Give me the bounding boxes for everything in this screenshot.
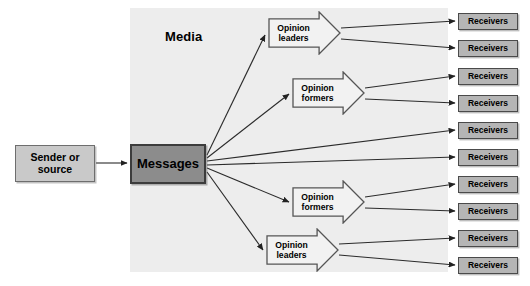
receiver-label: Receivers (468, 180, 508, 190)
opinion-formers-upper-label-line2: formers (302, 93, 334, 103)
receiver-label: Receivers (468, 126, 508, 136)
opinion-leaders-top-label-line1: Opinion (277, 23, 309, 33)
sender-label-line2: source (38, 163, 72, 175)
receiver-box-6: Receivers (458, 149, 518, 166)
receiver-box-5: Receivers (458, 122, 518, 139)
receiver-box-9: Receivers (458, 230, 518, 247)
receiver-label: Receivers (468, 17, 508, 27)
sender-source-box: Sender or source (15, 145, 95, 182)
receiver-box-8: Receivers (458, 203, 518, 220)
opinion-formers-upper: Opinionformers (292, 71, 365, 115)
opinion-leaders-bottom-label-line1: Opinion (275, 240, 307, 250)
opinion-formers-upper-label-line1: Opinion (301, 83, 333, 93)
receiver-label: Receivers (468, 99, 508, 109)
sender-label-line1: Sender or (30, 151, 79, 163)
receiver-box-10: Receivers (458, 257, 518, 274)
receiver-box-2: Receivers (458, 40, 518, 57)
receiver-label: Receivers (468, 261, 508, 271)
opinion-leaders-bottom-label-line2: leaders (276, 250, 306, 260)
receiver-box-1: Receivers (458, 13, 518, 30)
opinion-formers-lower: Opinionformers (292, 180, 365, 224)
receiver-box-4: Receivers (458, 95, 518, 112)
diagram-canvas: Media Sender or source Messages Opinionl… (0, 0, 530, 286)
opinion-formers-lower-label-line1: Opinion (301, 192, 333, 202)
receiver-box-7: Receivers (458, 176, 518, 193)
opinion-leaders-top-label-line2: leaders (278, 33, 308, 43)
receiver-label: Receivers (468, 72, 508, 82)
receiver-label: Receivers (468, 153, 508, 163)
receiver-label: Receivers (468, 234, 508, 244)
media-label: Media (165, 29, 202, 44)
opinion-leaders-top: Opinionleaders (268, 11, 341, 55)
receiver-box-3: Receivers (458, 68, 518, 85)
messages-box: Messages (130, 144, 206, 184)
receiver-label: Receivers (468, 44, 508, 54)
receiver-label: Receivers (468, 207, 508, 217)
opinion-leaders-bottom: Opinionleaders (266, 228, 339, 272)
opinion-formers-lower-label-line2: formers (302, 202, 334, 212)
messages-label: Messages (137, 157, 199, 172)
